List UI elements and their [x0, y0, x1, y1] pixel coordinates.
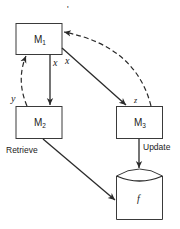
m3-subscript: 3 [142, 122, 146, 129]
edge-m3-m1 [64, 32, 151, 106]
node-f-database: f [117, 169, 163, 220]
stray-mark: ' [67, 4, 69, 14]
edge-label-z: z [133, 96, 138, 105]
node-m1: M1 [16, 24, 62, 55]
edge-label-x-right: x [64, 55, 70, 66]
edge-label-x-left: x [52, 57, 58, 68]
node-m3: M3 [117, 107, 163, 139]
edge-label-retrieve: Retrieve [6, 145, 38, 155]
edge-m2-f [43, 139, 115, 200]
m2-subscript: 2 [42, 122, 46, 129]
m1-label: M [34, 34, 42, 45]
node-m2: M2 [16, 107, 62, 139]
edge-label-update: Update [143, 142, 171, 152]
m1-subscript: 1 [42, 39, 46, 46]
edge-label-y: y [10, 93, 16, 104]
edge-m2-m1 [21, 56, 27, 106]
message-flow-diagram: ' M1 M2 M3 f x x y z Retrieve [0, 0, 180, 229]
m2-label: M [34, 117, 42, 128]
m3-label: M [134, 117, 142, 128]
edge-m1-m3 [62, 48, 126, 105]
